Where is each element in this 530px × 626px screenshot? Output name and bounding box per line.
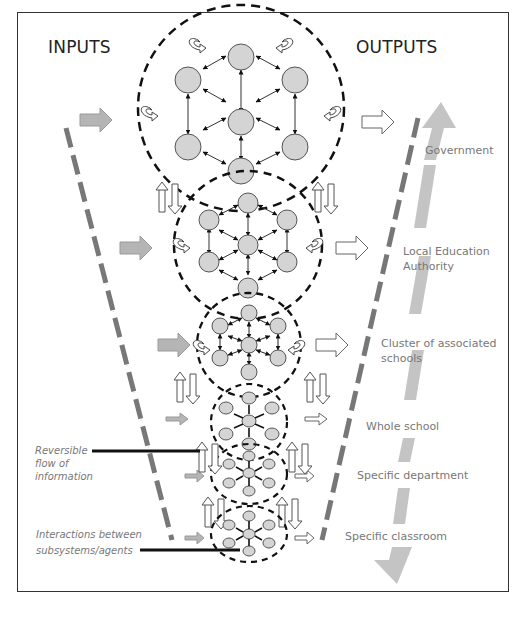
subsystem-whole-school (211, 384, 287, 460)
level-label-cluster: Cluster of associated schools (381, 336, 496, 366)
vertical-flow-arrows (156, 182, 182, 214)
inputs-heading: INPUTS (48, 37, 111, 57)
annotation-interactions: Interactions between subsystems/agents (36, 527, 142, 559)
output-arrow-2 (336, 236, 368, 260)
subsystem-lea (173, 171, 323, 319)
level-label-government: Government (425, 143, 494, 158)
subsystem-government (138, 5, 344, 211)
output-arrow-1 (362, 110, 394, 134)
subsystem-department (211, 444, 287, 504)
level-label-whole-school: Whole school (366, 419, 439, 434)
output-arrow-4 (305, 413, 327, 425)
output-arrow-3 (316, 333, 348, 357)
outputs-heading: OUTPUTS (356, 37, 437, 57)
input-arrow-4 (166, 413, 188, 425)
input-arrow-2 (120, 236, 152, 260)
input-arrow-3 (158, 333, 190, 357)
level-label-lea: Local Education Authority (403, 244, 490, 274)
level-label-department: Specific department (357, 468, 468, 483)
annotation-reversible-flow: Reversible flow of information (35, 444, 93, 483)
level-label-classroom: Specific classroom (345, 529, 447, 544)
input-arrow-1 (80, 108, 112, 132)
